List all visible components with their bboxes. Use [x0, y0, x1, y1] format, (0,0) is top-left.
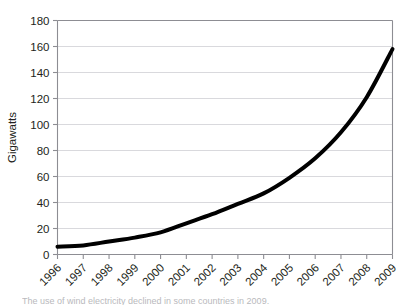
- y-tick-label: 100: [30, 119, 49, 131]
- y-tick-label: 80: [37, 145, 50, 157]
- y-tick-label: 60: [37, 171, 50, 183]
- y-tick-label: 20: [37, 223, 50, 235]
- y-tick-label: 120: [30, 93, 49, 105]
- figure-caption-cut-text: The use of wind electricity declined in …: [22, 296, 392, 305]
- y-tick-label: 40: [37, 197, 50, 209]
- y-tick-label: 0: [43, 249, 49, 261]
- chart-background: [0, 0, 411, 305]
- y-axis-title: Gigawatts: [6, 112, 18, 163]
- y-tick-label: 160: [30, 41, 49, 53]
- figure-container: 020406080100120140160180 199619971998199…: [0, 0, 411, 305]
- y-tick-label: 140: [30, 67, 49, 79]
- y-tick-label: 180: [30, 15, 49, 27]
- line-chart: 020406080100120140160180 199619971998199…: [0, 0, 411, 305]
